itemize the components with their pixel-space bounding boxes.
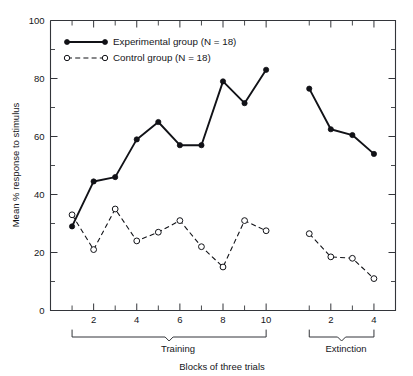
data-point-experimental (307, 86, 312, 91)
data-point-experimental (91, 179, 96, 184)
data-point-control (306, 231, 312, 237)
data-point-control (177, 218, 183, 224)
legend-marker-control-right (102, 55, 107, 60)
data-point-control (328, 254, 334, 260)
x-tick-label: 4 (371, 314, 376, 325)
legend-label-control: Control group (N = 18) (113, 52, 211, 63)
data-point-experimental (371, 151, 376, 156)
x-tick-label: 2 (91, 314, 96, 325)
data-point-experimental (69, 224, 74, 229)
data-point-experimental (134, 137, 139, 142)
data-point-experimental (242, 101, 247, 106)
x-tick-label: 10 (261, 314, 272, 325)
x-tick-label: 6 (177, 314, 182, 325)
x-tick-label: 4 (134, 314, 139, 325)
x-axis-title: Blocks of three trials (179, 361, 265, 372)
legend-marker-control-left (64, 55, 69, 60)
legend-marker-experimental-left (65, 40, 70, 45)
data-point-experimental (264, 67, 269, 72)
y-axis-title: Mean % response to stimulus (10, 102, 21, 227)
data-point-control (155, 229, 161, 235)
data-point-experimental (156, 119, 161, 124)
data-point-control (112, 206, 118, 212)
data-point-control (134, 238, 140, 244)
data-point-control (242, 218, 248, 224)
x-tick-label: 8 (220, 314, 225, 325)
legend-marker-experimental-right (103, 40, 108, 45)
data-point-experimental (199, 143, 204, 148)
y-tick-label: 40 (34, 189, 45, 200)
legend-label-experimental: Experimental group (N = 18) (113, 36, 236, 47)
data-point-control (220, 264, 226, 270)
chart-container: 020406080100 24681024 Mean % response to… (0, 0, 413, 376)
data-point-control (263, 228, 269, 234)
y-tick-label: 60 (34, 131, 45, 142)
line-chart: 020406080100 24681024 Mean % response to… (0, 0, 413, 376)
y-tick-label: 100 (29, 15, 45, 26)
y-tick-label: 20 (34, 247, 45, 258)
data-point-experimental (220, 79, 225, 84)
data-point-control (91, 247, 97, 253)
bracket-label-training: Training (161, 343, 195, 354)
x-tick-label: 2 (328, 314, 333, 325)
y-tick-label: 0 (39, 305, 44, 316)
data-point-experimental (177, 143, 182, 148)
data-point-experimental (113, 175, 118, 180)
data-point-control (69, 212, 75, 218)
y-tick-label: 80 (34, 73, 45, 84)
bracket-label-extinction: Extinction (325, 343, 366, 354)
data-point-control (349, 255, 355, 261)
data-point-experimental (350, 132, 355, 137)
data-point-control (199, 244, 205, 250)
data-point-control (371, 276, 377, 282)
data-point-experimental (328, 127, 333, 132)
